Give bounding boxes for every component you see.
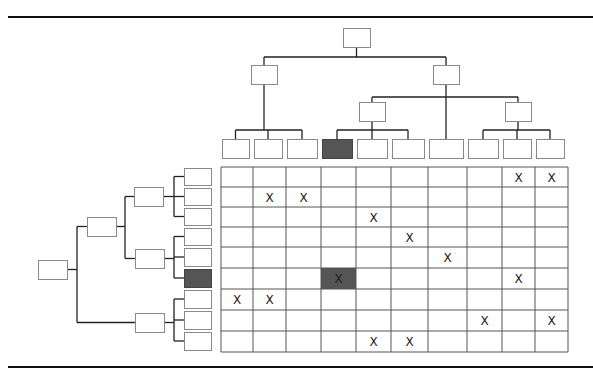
matrix-mark: X	[265, 191, 273, 205]
left-tree-level2-node	[135, 188, 164, 207]
top-tree	[223, 29, 565, 159]
matrix-grid: XXXXXXXXXXXXXXX	[221, 167, 568, 352]
matrix-mark: X	[480, 314, 488, 328]
left-tree-level1-node	[88, 218, 117, 237]
top-tree-leaf-node-highlighted	[323, 140, 353, 159]
matrix-mark: X	[369, 211, 377, 225]
left-tree-leaf-node	[185, 229, 212, 246]
top-tree-level1-node	[252, 66, 278, 85]
left-tree-leaf-node	[185, 209, 212, 226]
left-tree-leaf-node	[185, 312, 212, 330]
left-tree-level2-node	[136, 314, 165, 333]
left-tree-leaf-node	[185, 169, 212, 186]
matrix-mark: X	[405, 231, 413, 245]
hierarchical-matrix-diagram: XXXXXXXXXXXXXXX	[0, 0, 593, 379]
left-tree	[39, 169, 212, 351]
matrix-mark: X	[405, 335, 413, 349]
matrix-mark: X	[514, 171, 522, 185]
left-tree-leaf-node	[185, 189, 212, 206]
top-tree-leaf-node	[223, 140, 250, 159]
matrix-mark: X	[514, 272, 522, 286]
left-tree-leaf-node-highlighted	[185, 270, 212, 288]
left-tree-root-node	[39, 261, 68, 280]
matrix-mark: X	[547, 171, 555, 185]
top-tree-leaf-node	[469, 140, 499, 159]
matrix-mark: X	[443, 251, 451, 265]
top-tree-level1-node	[434, 66, 460, 85]
left-tree-leaf-node	[185, 291, 212, 309]
top-tree-root-node	[344, 29, 371, 48]
matrix-mark: X	[233, 293, 241, 307]
top-tree-level2-node	[360, 103, 386, 122]
top-tree-leaf-node	[255, 140, 283, 159]
top-tree-leaf-node	[288, 140, 318, 159]
matrix-mark: X	[547, 314, 555, 328]
left-tree-level2-node	[136, 250, 165, 269]
left-tree-leaf-node	[185, 249, 212, 267]
top-tree-leaf-node	[537, 140, 565, 159]
left-tree-leaf-node	[185, 333, 212, 351]
top-tree-leaf-node	[430, 140, 464, 159]
top-tree-leaf-node	[358, 140, 388, 159]
matrix-mark: X	[265, 293, 273, 307]
top-tree-leaf-node	[504, 140, 532, 159]
matrix-mark: X	[334, 272, 342, 286]
matrix-mark: X	[369, 335, 377, 349]
matrix-mark: X	[299, 191, 307, 205]
top-tree-leaf-node	[393, 140, 425, 159]
top-tree-level2-node	[506, 103, 532, 122]
